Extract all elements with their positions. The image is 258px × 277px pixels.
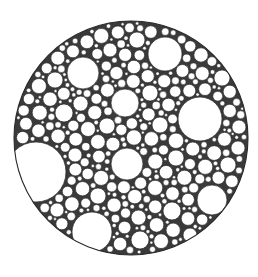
packed-circle <box>227 188 232 193</box>
packed-circle <box>135 177 147 189</box>
packed-circle <box>136 146 140 150</box>
packed-circle <box>135 88 140 93</box>
packed-circle <box>104 211 109 216</box>
packed-circle <box>141 102 147 108</box>
packed-circle <box>186 142 200 156</box>
packed-circle <box>192 207 198 213</box>
packed-circle <box>69 132 83 146</box>
packed-circle <box>209 216 212 219</box>
packed-circle <box>164 158 167 161</box>
packed-circle <box>124 36 128 40</box>
packed-circle <box>111 26 124 39</box>
major-circle <box>111 148 143 180</box>
packed-circle <box>60 143 69 152</box>
packed-circle <box>101 72 104 75</box>
packed-circle <box>69 163 82 176</box>
packed-circle <box>80 35 94 49</box>
packed-circle <box>114 117 121 124</box>
packed-circle <box>65 83 69 87</box>
packed-circle <box>140 98 144 102</box>
packed-circle <box>41 75 44 78</box>
packed-circle <box>154 174 159 179</box>
packed-circle <box>91 135 106 150</box>
major-circle <box>103 43 117 57</box>
packed-circle <box>82 143 90 151</box>
packed-circle <box>55 122 61 128</box>
packed-circle <box>49 201 53 205</box>
packed-circle <box>207 146 222 161</box>
packed-circle <box>120 208 130 218</box>
packed-circle <box>153 80 157 84</box>
packed-circle <box>156 72 159 75</box>
packed-circle <box>197 214 208 225</box>
packed-circle <box>199 83 212 96</box>
packed-circle <box>130 204 134 208</box>
packed-circle <box>68 120 79 131</box>
packed-circle <box>77 176 82 181</box>
packed-circle <box>184 41 195 52</box>
packed-circle <box>148 200 161 213</box>
major-circle <box>131 231 149 249</box>
packed-circle <box>142 108 155 121</box>
packed-circle <box>125 234 129 238</box>
packed-circle <box>112 223 116 227</box>
packed-circle <box>201 142 207 148</box>
packed-circle <box>236 156 242 162</box>
packed-circle <box>150 246 156 252</box>
packed-circle <box>122 142 127 147</box>
packed-circle <box>82 168 93 179</box>
packed-circle <box>160 91 167 98</box>
packed-circle <box>198 155 202 159</box>
packed-circle <box>223 119 230 126</box>
packed-circle <box>157 98 160 101</box>
packed-circle <box>158 145 168 155</box>
packed-circle <box>55 145 59 149</box>
packed-circle <box>81 122 96 137</box>
packed-circle <box>141 70 154 83</box>
major-circle <box>99 118 115 134</box>
packed-circle <box>107 182 117 192</box>
packed-circle <box>81 50 86 55</box>
packed-circle <box>126 247 133 254</box>
major-circle <box>152 117 168 133</box>
packed-circle <box>48 113 55 120</box>
packed-circle <box>105 159 110 164</box>
packed-circle <box>170 86 181 97</box>
packed-circle <box>86 208 89 211</box>
packed-circle <box>122 201 128 207</box>
packed-circle <box>149 218 164 233</box>
packed-circle <box>125 72 128 75</box>
packed-circle <box>125 23 135 33</box>
major-circle <box>220 157 236 173</box>
packed-circle <box>110 38 113 41</box>
packed-circle <box>193 225 197 229</box>
packed-circle <box>43 92 57 106</box>
packed-circle <box>140 225 146 231</box>
packed-circle <box>168 114 177 123</box>
packed-circle <box>30 137 34 141</box>
packed-circle <box>176 101 181 106</box>
packed-circle <box>188 73 195 80</box>
packed-circle <box>218 132 232 146</box>
packed-circle <box>127 60 141 74</box>
packed-circle <box>189 183 199 193</box>
packed-circle <box>102 75 109 82</box>
packed-circle <box>101 61 111 71</box>
packed-circle <box>53 66 57 70</box>
packed-circle <box>162 199 167 204</box>
packed-circle <box>144 26 157 39</box>
packed-circle <box>136 22 139 25</box>
packed-circle <box>96 129 99 132</box>
packed-circle <box>149 66 152 69</box>
packed-circle <box>174 108 177 111</box>
packed-circle <box>216 166 220 170</box>
packed-circle <box>93 150 106 163</box>
packed-circle <box>177 170 192 185</box>
packed-circle <box>208 77 214 83</box>
packed-circle <box>140 123 148 131</box>
packed-circle <box>241 134 246 139</box>
major-circle <box>163 202 181 220</box>
major-circle <box>142 85 158 101</box>
packed-circle <box>227 128 232 133</box>
packed-circle <box>75 112 78 115</box>
